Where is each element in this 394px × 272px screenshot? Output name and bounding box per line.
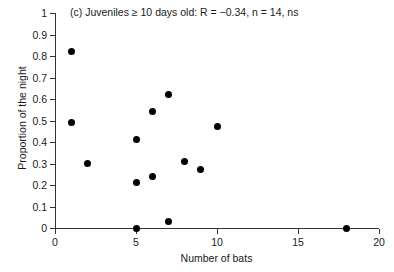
data-point <box>84 160 91 167</box>
data-point <box>68 119 75 126</box>
data-point <box>181 158 188 165</box>
x-tick-label: 20 <box>359 236 394 248</box>
y-axis-line <box>55 13 56 229</box>
data-point <box>165 91 172 98</box>
x-tick-mark <box>298 229 299 234</box>
y-tick-label: 0.4 <box>7 137 47 147</box>
data-point <box>133 225 140 232</box>
y-tick-label: 0.7 <box>7 73 47 83</box>
data-point <box>214 123 221 130</box>
y-tick-mark <box>50 142 55 143</box>
x-tick-mark <box>217 229 218 234</box>
data-point <box>133 179 140 186</box>
x-tick-label: 15 <box>278 236 318 248</box>
data-point <box>149 173 156 180</box>
y-tick-label: 1 <box>7 8 47 18</box>
y-tick-mark <box>50 164 55 165</box>
y-tick-mark <box>50 78 55 79</box>
y-tick-label: 0.1 <box>7 202 47 212</box>
y-tick-label: 0.9 <box>7 30 47 40</box>
y-tick-label: 0.2 <box>7 180 47 190</box>
y-tick-label: 0.3 <box>7 159 47 169</box>
data-point <box>165 218 172 225</box>
data-point <box>68 48 75 55</box>
scatter-plot-figure: (c) Juveniles ≥ 10 days old: R = −0.34, … <box>0 0 394 272</box>
y-tick-mark <box>50 13 55 14</box>
y-tick-label: 0 <box>7 223 47 233</box>
x-tick-label: 0 <box>35 236 75 248</box>
x-axis-label: Number of bats <box>55 252 378 264</box>
y-tick-label: 0.6 <box>7 94 47 104</box>
y-tick-mark <box>50 207 55 208</box>
data-point <box>149 108 156 115</box>
data-point <box>343 225 350 232</box>
y-tick-mark <box>50 185 55 186</box>
x-tick-mark <box>379 229 380 234</box>
data-point <box>197 166 204 173</box>
x-tick-label: 5 <box>116 236 156 248</box>
y-tick-label: 0.5 <box>7 116 47 126</box>
data-point <box>133 136 140 143</box>
plot-title: (c) Juveniles ≥ 10 days old: R = −0.34, … <box>70 6 298 18</box>
x-tick-label: 10 <box>197 236 237 248</box>
y-tick-label: 0.8 <box>7 51 47 61</box>
x-tick-mark <box>55 229 56 234</box>
y-tick-mark <box>50 99 55 100</box>
y-tick-mark <box>50 56 55 57</box>
y-tick-mark <box>50 35 55 36</box>
y-tick-mark <box>50 121 55 122</box>
